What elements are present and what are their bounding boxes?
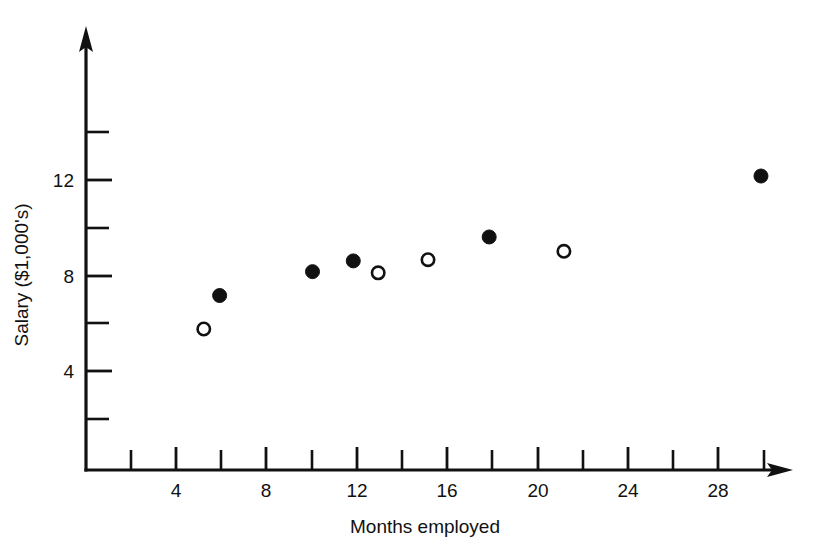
x-tick-label-24: 24	[617, 480, 639, 501]
data-point-open-circle	[198, 323, 210, 335]
data-point-filled-circle	[213, 289, 227, 303]
x-tick-label-8: 8	[261, 480, 272, 501]
plot-background	[0, 0, 814, 558]
data-point-filled-circle	[482, 230, 496, 244]
y-tick-label-8: 8	[63, 266, 74, 287]
x-tick-label-12: 12	[346, 480, 367, 501]
scatter-plot-figure: 4 8 12 Salary ($1,000's) 4 8 12 16 20 24…	[0, 0, 814, 558]
data-point-open-circle	[372, 267, 384, 279]
x-tick-label-16: 16	[436, 480, 457, 501]
x-tick-label-20: 20	[527, 480, 548, 501]
x-axis-label: Months employed	[350, 516, 500, 537]
data-point-open-circle	[422, 253, 434, 265]
y-tick-label-12: 12	[53, 170, 74, 191]
x-tick-label-28: 28	[707, 480, 728, 501]
y-axis-label: Salary ($1,000's)	[11, 203, 32, 346]
data-point-filled-circle	[306, 265, 320, 279]
data-point-filled-circle	[754, 169, 768, 183]
data-point-open-circle	[558, 245, 570, 257]
y-tick-label-4: 4	[63, 361, 74, 382]
data-point-filled-circle	[346, 254, 360, 268]
x-tick-label-4: 4	[171, 480, 182, 501]
